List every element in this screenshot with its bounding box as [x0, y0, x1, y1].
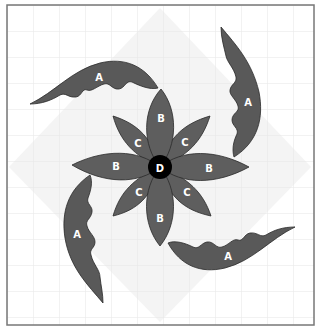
- label-petal-b-bottom: B: [156, 213, 164, 224]
- label-petal-c-top-left: C: [134, 138, 141, 149]
- label-center-d: D: [156, 163, 164, 174]
- label-leaf-top-left: A: [95, 72, 103, 83]
- label-petal-c-top-right: C: [181, 137, 188, 148]
- label-leaf-bottom-right: A: [224, 251, 232, 262]
- label-petal-b-right: B: [205, 163, 213, 174]
- label-petal-b-top: B: [157, 113, 165, 124]
- quilt-block-diagram: A A A A B B B B C C C C D: [0, 0, 320, 335]
- label-petal-c-bottom-left: C: [135, 187, 142, 198]
- label-leaf-top-right: A: [244, 97, 252, 108]
- label-petal-c-bottom-right: C: [183, 187, 190, 198]
- label-leaf-bottom-left: A: [73, 229, 81, 240]
- label-petal-b-left: B: [112, 161, 120, 172]
